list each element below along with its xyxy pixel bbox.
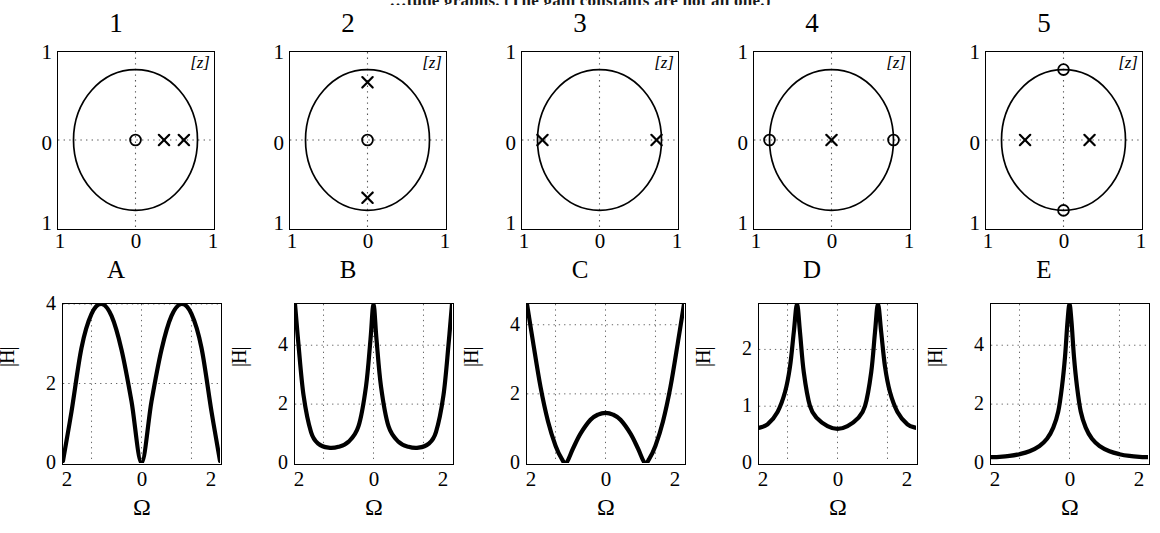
magnitude-axes <box>62 303 222 465</box>
pole-zero-row: 1[z]1011012[z]1011013[z]1011014[z]101101… <box>0 8 1160 255</box>
z-plane-axes: [z] <box>289 51 447 230</box>
pz-y-tick: 0 <box>28 133 52 154</box>
pz-x-tick: 1 <box>279 231 305 252</box>
pz-x-tick: 1 <box>975 231 1001 252</box>
mag-x-tick: 2 <box>662 469 688 490</box>
magnitude-row: A|H|420202ΩB|H|420202ΩC|H|420202ΩD|H|210… <box>0 255 1160 533</box>
mag-x-tick: 0 <box>129 469 155 490</box>
pz-x-tick: 1 <box>896 231 922 252</box>
mag-y-tick: 0 <box>958 452 984 472</box>
mag-y-tick: 1 <box>726 395 752 415</box>
pz-y-tick: 0 <box>492 133 516 154</box>
mag-x-tick: 2 <box>286 469 312 490</box>
z-plane-axes: [z] <box>753 51 911 230</box>
pz-x-tick: 1 <box>664 231 690 252</box>
mag-y-tick: 2 <box>958 393 984 413</box>
magnitude-axes <box>294 303 454 465</box>
pz-x-tick: 1 <box>47 231 73 252</box>
magnitude-axes <box>990 303 1150 465</box>
mag-y-tick: 2 <box>262 393 288 413</box>
magnitude-y-axis-label: |H| <box>228 348 251 367</box>
magnitude-axes <box>526 303 686 465</box>
magnitude-panel-E: E|H|420202Ω <box>928 255 1160 533</box>
mag-y-tick: 2 <box>726 338 752 358</box>
magnitude-axes <box>758 303 918 465</box>
panel-title: E <box>928 255 1160 285</box>
magnitude-y-axis-label: |H| <box>692 348 715 367</box>
mag-y-tick: 4 <box>262 334 288 354</box>
pz-y-tick: 1 <box>492 42 516 63</box>
panel-title: 5 <box>928 8 1160 38</box>
panel-title: C <box>464 255 696 285</box>
pz-x-tick: 1 <box>743 231 769 252</box>
magnitude-panel-B: B|H|420202Ω <box>232 255 464 533</box>
z-plane-label: [z] <box>1118 53 1138 73</box>
pole-zero-panel-1: 1[z]101101 <box>0 8 232 255</box>
mag-x-tick: 2 <box>894 469 920 490</box>
magnitude-panel-A: A|H|420202Ω <box>0 255 232 533</box>
panel-title: A <box>0 255 232 285</box>
mag-x-tick: 2 <box>518 469 544 490</box>
pz-y-tick: 1 <box>260 42 284 63</box>
z-plane-axes: [z] <box>985 51 1143 230</box>
mag-y-tick: 4 <box>30 293 56 313</box>
z-plane-axes: [z] <box>521 51 679 230</box>
magnitude-panel-C: C|H|420202Ω <box>464 255 696 533</box>
pz-y-tick: 1 <box>956 42 980 63</box>
magnitude-y-axis-label: |H| <box>924 348 947 367</box>
mag-x-tick: 0 <box>825 469 851 490</box>
z-plane-axes: [z] <box>57 51 215 230</box>
panel-title: B <box>232 255 464 285</box>
mag-x-tick: 0 <box>1057 469 1083 490</box>
pz-y-tick: 1 <box>28 42 52 63</box>
z-plane-label: [z] <box>190 53 210 73</box>
panel-title: 4 <box>696 8 928 38</box>
mag-y-tick: 0 <box>262 452 288 472</box>
panel-title: D <box>696 255 928 285</box>
magnitude-x-axis-label: Ω <box>294 495 454 519</box>
mag-y-tick: 2 <box>30 373 56 393</box>
magnitude-panel-D: D|H|210202Ω <box>696 255 928 533</box>
magnitude-x-axis-label: Ω <box>990 495 1150 519</box>
magnitude-x-axis-label: Ω <box>62 495 222 519</box>
mag-x-tick: 2 <box>198 469 224 490</box>
z-plane-label: [z] <box>654 53 674 73</box>
magnitude-y-axis-label: |H| <box>460 348 483 367</box>
mag-y-tick: 2 <box>494 383 520 403</box>
pole-zero-panel-2: 2[z]101101 <box>232 8 464 255</box>
pole-zero-panel-5: 5[z]101101 <box>928 8 1160 255</box>
pz-x-tick: 1 <box>1128 231 1154 252</box>
magnitude-x-axis-label: Ω <box>758 495 918 519</box>
pz-x-tick: 1 <box>432 231 458 252</box>
mag-y-tick: 0 <box>726 452 752 472</box>
z-plane-label: [z] <box>422 53 442 73</box>
mag-y-tick: 0 <box>494 452 520 472</box>
panel-title: 3 <box>464 8 696 38</box>
panel-title: 2 <box>232 8 464 38</box>
pole-zero-panel-4: 4[z]101101 <box>696 8 928 255</box>
magnitude-x-axis-label: Ω <box>526 495 686 519</box>
mag-x-tick: 2 <box>750 469 776 490</box>
pz-x-tick: 1 <box>511 231 537 252</box>
pz-x-tick: 0 <box>819 231 845 252</box>
pz-x-tick: 0 <box>355 231 381 252</box>
figure-caption: …tude graphs. (The gain constants are no… <box>0 0 1160 5</box>
mag-y-tick: 4 <box>958 334 984 354</box>
mag-x-tick: 2 <box>1126 469 1152 490</box>
mag-x-tick: 2 <box>430 469 456 490</box>
pole-zero-panel-3: 3[z]101101 <box>464 8 696 255</box>
pz-x-tick: 0 <box>1051 231 1077 252</box>
pz-x-tick: 0 <box>123 231 149 252</box>
mag-y-tick: 0 <box>30 452 56 472</box>
pz-y-tick: 0 <box>956 133 980 154</box>
mag-x-tick: 0 <box>593 469 619 490</box>
mag-y-tick: 4 <box>494 314 520 334</box>
z-plane-label: [z] <box>886 53 906 73</box>
pz-y-tick: 0 <box>260 133 284 154</box>
pz-x-tick: 0 <box>587 231 613 252</box>
pz-x-tick: 1 <box>200 231 226 252</box>
panel-title: 1 <box>0 8 232 38</box>
mag-x-tick: 2 <box>54 469 80 490</box>
mag-x-tick: 0 <box>361 469 387 490</box>
pz-y-tick: 0 <box>724 133 748 154</box>
